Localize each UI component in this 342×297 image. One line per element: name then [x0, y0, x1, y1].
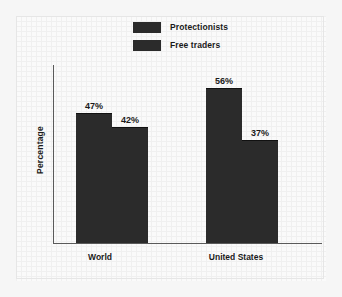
y-axis-title-label: Percentage — [35, 126, 45, 174]
legend-item-free-traders[interactable]: Free traders — [133, 40, 228, 51]
category-label-world: World — [60, 252, 140, 262]
bar-wrap: 56% — [206, 60, 242, 243]
x-axis-line — [53, 243, 322, 244]
legend-item-protectionists[interactable]: Protectionists — [133, 22, 228, 33]
legend-swatch-icon — [133, 40, 161, 51]
plot-area: 47% 42% 56% 37% — [54, 60, 322, 243]
bar-us-free-traders[interactable] — [242, 140, 278, 243]
category-label-united-states: United States — [190, 252, 282, 262]
bar-wrap: 37% — [242, 60, 278, 243]
bar-value-label: 42% — [121, 115, 139, 125]
chart-legend: Protectionists Free traders — [133, 22, 228, 51]
bar-wrap: 47% — [76, 60, 112, 243]
bar-world-protectionists[interactable] — [76, 113, 112, 243]
bar-wrap: 42% — [112, 60, 148, 243]
bar-chart: Protectionists Free traders Percentage 4… — [0, 0, 342, 297]
bar-group-united-states: 56% 37% — [206, 60, 278, 243]
legend-swatch-icon — [133, 22, 161, 33]
bar-group-world: 47% 42% — [76, 60, 148, 243]
legend-item-label: Free traders — [170, 40, 220, 51]
bar-value-label: 47% — [85, 101, 103, 111]
legend-item-label: Protectionists — [170, 22, 228, 33]
bar-value-label: 37% — [251, 128, 269, 138]
bar-world-free-traders[interactable] — [112, 127, 148, 243]
bar-value-label: 56% — [215, 76, 233, 86]
bar-us-protectionists[interactable] — [206, 88, 242, 243]
